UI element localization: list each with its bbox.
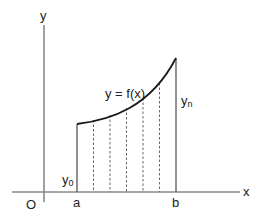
curve-label: y = f(x) (105, 86, 145, 101)
trapezoid-rule-diagram: y x O a b y = f(x) y0 yn (0, 0, 264, 216)
origin-label: O (26, 197, 36, 212)
x-axis-label: x (243, 184, 250, 199)
y0-subscript: 0 (69, 178, 74, 188)
a-label: a (73, 195, 81, 210)
yn-subscript: n (188, 99, 193, 109)
y-axis-label: y (40, 8, 47, 23)
b-label: b (172, 195, 179, 210)
y0-label: y0 (62, 172, 74, 188)
yn-label: yn (181, 93, 193, 109)
